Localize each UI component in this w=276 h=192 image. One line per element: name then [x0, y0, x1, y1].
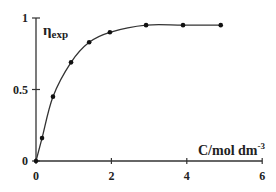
y-axis-label-main: η [43, 22, 52, 38]
x-tick-label: 0 [33, 169, 39, 183]
data-point [181, 23, 186, 28]
x-tick-label: 2 [108, 169, 114, 183]
data-point [87, 40, 92, 45]
y-tick-label: 0 [22, 154, 28, 168]
chart-svg: 024600.51 ηexp C/mol dm-3 [0, 0, 276, 192]
x-tick-label: 6 [259, 169, 265, 183]
x-axis-label-main: C/mol dm [198, 143, 258, 158]
x-axis-label-sup: -3 [258, 141, 266, 151]
x-axis-label: C/mol dm-3 [198, 141, 265, 158]
x-tick-label: 4 [184, 169, 190, 183]
data-point [69, 60, 74, 65]
data-point [34, 159, 39, 164]
y-axis-label: ηexp [43, 22, 68, 40]
y-tick-label: 0.5 [13, 83, 28, 97]
y-axis-label-sub: exp [52, 28, 69, 40]
data-curve [36, 25, 221, 161]
data-point [218, 23, 223, 28]
data-points [34, 23, 223, 163]
data-point [40, 136, 45, 141]
chart: 024600.51 ηexp C/mol dm-3 [0, 0, 276, 192]
data-point [108, 30, 113, 35]
data-point [144, 23, 149, 28]
fit-curve [36, 25, 221, 161]
data-point [51, 94, 56, 99]
y-tick-label: 1 [22, 11, 28, 25]
